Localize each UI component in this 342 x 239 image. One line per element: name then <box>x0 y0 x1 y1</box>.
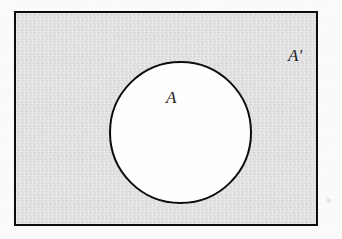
scan-artifact-speck <box>326 198 331 203</box>
venn-diagram-figure: A A′ <box>0 0 342 239</box>
universal-set-rectangle: A A′ <box>14 11 318 226</box>
prime-mark-icon: ′ <box>298 46 302 65</box>
set-a-label: A <box>166 89 176 106</box>
complement-label-base: A <box>288 46 298 65</box>
set-a-circle <box>109 61 252 204</box>
complement-label: A′ <box>288 47 302 64</box>
